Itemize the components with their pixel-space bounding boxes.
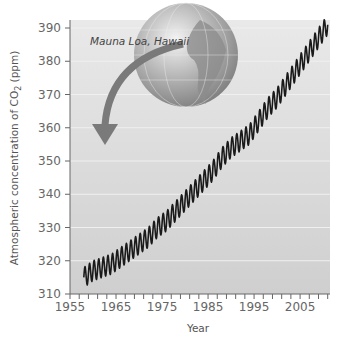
y-tick-label: 370 xyxy=(38,88,61,102)
y-tick-label: 320 xyxy=(38,254,61,268)
x-tick-label: 1975 xyxy=(147,300,178,314)
y-axis-title: Atmospheric concentration of CO2 (ppm) xyxy=(8,51,23,266)
x-axis: 195519651975198519952005 xyxy=(55,294,330,314)
x-tick-label: 2005 xyxy=(285,300,316,314)
y-tick-label: 350 xyxy=(38,154,61,168)
x-tick-label: 1965 xyxy=(101,300,132,314)
y-axis: 310320330340350360370380390 xyxy=(38,20,70,301)
location-annotation: Mauna Loa, Hawaii xyxy=(90,35,189,47)
y-tick-label: 380 xyxy=(38,54,61,68)
x-tick-label: 1995 xyxy=(239,300,270,314)
keeling-curve-chart: 310320330340350360370380390 195519651975… xyxy=(0,0,342,346)
x-tick-label: 1985 xyxy=(193,300,224,314)
y-tick-label: 340 xyxy=(38,187,61,201)
x-tick-label: 1955 xyxy=(55,300,86,314)
x-axis-title: Year xyxy=(186,322,210,334)
y-tick-label: 390 xyxy=(38,21,61,35)
y-tick-label: 330 xyxy=(38,221,61,235)
y-tick-label: 310 xyxy=(38,287,61,301)
y-tick-label: 360 xyxy=(38,121,61,135)
